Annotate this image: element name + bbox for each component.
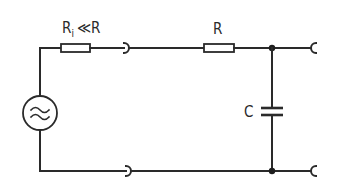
internal-resistor-ri: [61, 44, 90, 52]
junction-bottom: [269, 168, 275, 174]
label-r: R: [213, 20, 222, 38]
terminal-output-bottom: [311, 166, 316, 176]
label-c: C: [244, 103, 253, 121]
label-ri: Ri≪R: [62, 19, 100, 39]
resistor-r: [204, 44, 234, 52]
terminal-output-top: [311, 43, 316, 53]
ac-source: [23, 96, 57, 130]
circuit-diagram: Ri≪R R C: [0, 0, 337, 186]
